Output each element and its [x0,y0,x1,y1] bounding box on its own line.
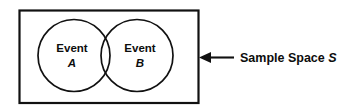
sample-space-label-symbol: S [328,51,337,65]
arrow-head [199,52,211,63]
sample-space-label-word: Sample Space [240,51,325,65]
venn-diagram-figure: Event A Event B Sample Space S [0,0,356,112]
event-a-symbol: A [67,57,76,69]
event-a-word: Event [56,42,87,54]
sample-space-rectangle [20,11,199,104]
sample-space-arrow-icon [199,52,234,63]
sample-space-label: Sample Space S [240,51,337,65]
event-b-circle [101,20,173,92]
event-b-symbol: B [136,57,144,69]
diagram-canvas: Event A Event B Sample Space S [0,0,356,112]
event-a-circle [38,20,110,92]
event-b-word: Event [124,42,155,54]
